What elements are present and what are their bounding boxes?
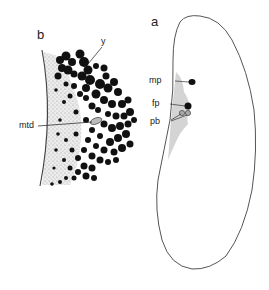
pb-body-2 bbox=[185, 110, 190, 115]
label-mtd: mtd bbox=[19, 121, 34, 130]
label-pb: pb bbox=[150, 117, 160, 126]
panel-b-drawing bbox=[38, 47, 137, 186]
panel-label-a: a bbox=[151, 15, 158, 28]
cytoplasm-stipple bbox=[168, 72, 190, 160]
label-y: y bbox=[101, 37, 106, 46]
label-fp: fp bbox=[152, 99, 160, 108]
panel-label-b: b bbox=[37, 28, 44, 41]
figure-canvas bbox=[0, 0, 269, 290]
leader-line-y bbox=[88, 47, 102, 64]
mp-granule bbox=[189, 79, 196, 85]
fp-granule bbox=[185, 103, 192, 110]
label-mp: mp bbox=[149, 76, 162, 85]
panel-a-drawing bbox=[157, 16, 256, 269]
